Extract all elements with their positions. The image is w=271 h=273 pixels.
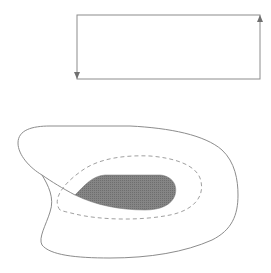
arrow-up-icon — [257, 15, 263, 22]
inner-region — [75, 175, 176, 210]
arrow-down-icon — [74, 72, 80, 79]
rectangle-outline — [77, 15, 260, 79]
diagram-canvas — [0, 0, 271, 273]
oriented-rectangle — [74, 15, 263, 79]
